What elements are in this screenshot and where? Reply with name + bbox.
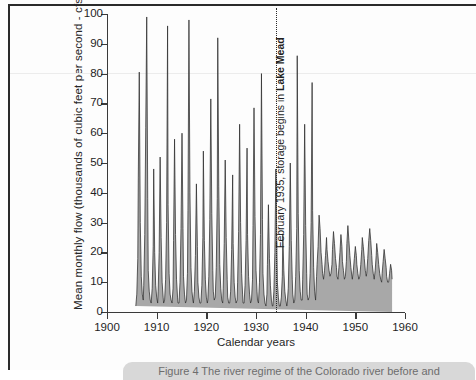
y-tick-label-40: 40: [63, 186, 103, 198]
y-tick-label-10: 10: [63, 275, 103, 287]
y-tick-label-80: 80: [63, 67, 103, 79]
figure-caption-text: Figure 4 The river regime of the Colorad…: [123, 365, 475, 377]
y-tick-label-100: 100: [63, 7, 103, 19]
x-tick-1920: [206, 313, 207, 319]
figure-colorado-river-regime: Mean monthly flow (thousands of cubic fe…: [10, 6, 476, 370]
y-tick-label-90: 90: [63, 37, 103, 49]
x-tick-1950: [355, 313, 356, 319]
x-tick-1910: [157, 313, 158, 319]
y-tick-label-70: 70: [63, 96, 103, 108]
lake-mead-event-label: February 1935, storage begins in Lake Me…: [274, 37, 286, 248]
x-tick-1960: [405, 313, 406, 319]
y-tick-label-60: 60: [63, 126, 103, 138]
event-label-place: Lake Mead: [274, 37, 286, 91]
y-tick-label-0: 0: [63, 305, 103, 317]
x-tick-label-1960: 1960: [375, 321, 435, 333]
x-tick-1930: [256, 313, 257, 319]
x-tick-1900: [107, 313, 108, 319]
y-tick-label-50: 50: [63, 156, 103, 168]
figure-caption-bar: Figure 4 The river regime of the Colorad…: [123, 362, 475, 380]
y-tick-label-30: 30: [63, 216, 103, 228]
event-label-prefix: February 1935, storage begins in: [274, 91, 286, 248]
x-axis-title: Calendar years: [107, 336, 405, 348]
flow-series: [107, 14, 405, 312]
plot-area: 0102030405060708090100 19001910192019301…: [107, 14, 405, 312]
x-tick-1940: [306, 313, 307, 319]
y-tick-label-20: 20: [63, 245, 103, 257]
